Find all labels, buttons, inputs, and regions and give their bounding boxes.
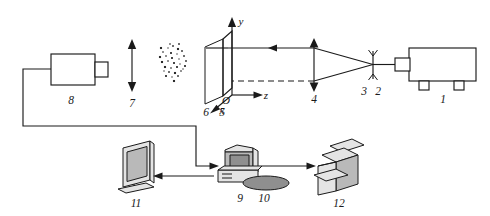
particle-dot [179, 63, 180, 64]
particle-dot [163, 70, 164, 71]
coordinate-system: y z x O [210, 15, 269, 116]
diverging-beam-cone [314, 48, 373, 81]
camera-body [51, 54, 95, 85]
particle-dot [176, 53, 177, 54]
label-xmarker: 6 [203, 106, 209, 118]
camera-lens-barrel [95, 62, 108, 77]
computer-to-printer-link [262, 162, 316, 169]
axis-label-z: z [263, 89, 269, 101]
ccd-camera[interactable]: 8 [51, 54, 108, 106]
label-mouse: 10 [258, 192, 270, 204]
particle-dot [184, 65, 186, 67]
label-computer: 9 [237, 192, 243, 204]
display-monitor[interactable]: 11 [118, 141, 154, 209]
computer-workstation[interactable]: 9 10 [218, 145, 289, 204]
z-axis-arrowhead [254, 91, 264, 98]
spatial-filter-assembly[interactable]: 3 2 [360, 50, 381, 97]
particle-dot [173, 80, 175, 82]
particle-dot [165, 75, 167, 77]
laser-foot-left [419, 81, 429, 90]
mouse-body [243, 176, 289, 190]
laser-foot-right [454, 81, 464, 90]
plane-outline [223, 31, 232, 96]
particle-dot [168, 71, 170, 73]
particle-cloud [159, 43, 187, 82]
cone-upper-ray [314, 48, 373, 65]
particle-dot [178, 43, 180, 45]
collimated-beam [228, 44, 314, 51]
particle-dot [169, 43, 170, 44]
particle-dot [182, 68, 183, 69]
beam-direction-arrowhead [268, 44, 277, 51]
particle-dot [170, 67, 171, 68]
label-pinhole: 2 [375, 85, 381, 97]
particle-dot [161, 61, 163, 63]
laser-output-nozzle [395, 58, 410, 71]
laser-body [409, 48, 476, 81]
particle-dot [183, 55, 185, 57]
label-camera: 8 [68, 94, 74, 106]
traverse-direction-arrow[interactable]: 7 [128, 39, 136, 109]
particle-dot [177, 48, 179, 50]
y-axis-arrowhead [228, 17, 236, 27]
particle-dot [177, 75, 179, 77]
particle-dot [165, 55, 166, 56]
particle-dot [180, 70, 181, 71]
particle-dot [171, 76, 172, 77]
particle-dot [162, 51, 163, 52]
traverse-arrow-down [128, 82, 136, 92]
particle-dot [174, 72, 176, 74]
particle-dot [167, 60, 168, 61]
printer[interactable]: 12 [314, 139, 364, 209]
particle-dot [159, 56, 161, 58]
particle-dot [172, 45, 174, 47]
figure-canvas: 1 3 2 4 y z x O [0, 0, 490, 216]
axis-label-y: y [238, 15, 244, 27]
traverse-arrow-up [128, 39, 136, 49]
particle-dot [173, 62, 175, 64]
particle-dot [170, 52, 172, 54]
particle-dot [171, 57, 173, 59]
label-monitor: 11 [131, 197, 142, 209]
plane-face [205, 39, 223, 104]
label-traverse: 7 [129, 97, 136, 109]
label-aperture: 3 [360, 85, 367, 97]
label-laser: 1 [440, 93, 446, 105]
computer-base-top [218, 166, 262, 170]
monitor-side [150, 141, 154, 183]
particle-dot [176, 66, 178, 68]
crt-top [225, 145, 253, 152]
lens-arrow-top [310, 38, 319, 48]
label-plane: 5 [219, 106, 225, 118]
monitor-screen [127, 147, 147, 182]
label-lens: 4 [311, 93, 317, 105]
particle-dot [160, 47, 162, 49]
particle-dot [185, 60, 187, 62]
computer-to-monitor-link [153, 172, 214, 179]
particle-dot [178, 58, 179, 59]
laser-unit[interactable]: 1 [395, 48, 476, 105]
piv-setup-diagram: 1 3 2 4 y z x O [0, 0, 490, 216]
printer-link-arrowhead [307, 162, 317, 169]
particle-dot [164, 66, 166, 68]
cable-arrowhead [210, 162, 220, 169]
label-printer: 12 [333, 197, 345, 209]
cone-lower-ray [314, 65, 373, 82]
lens-arrow-bottom [310, 83, 319, 93]
particle-dot [181, 50, 183, 52]
particle-dot [167, 47, 168, 48]
